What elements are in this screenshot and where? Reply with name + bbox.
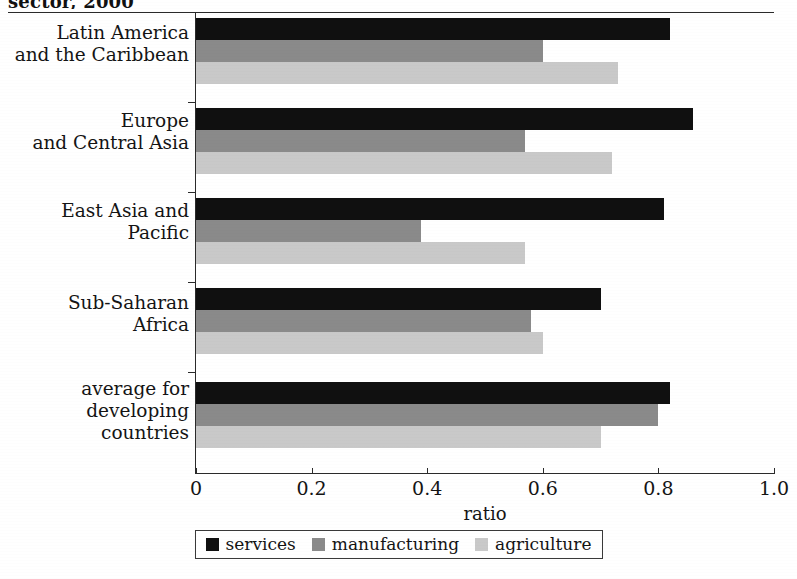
x-tick-label-0.8: 0.8 — [643, 477, 673, 499]
legend-item-agriculture[interactable]: agriculture — [475, 534, 591, 554]
legend-swatch-services — [205, 538, 218, 551]
legend-label-agriculture: agriculture — [495, 534, 591, 554]
x-tick-0.4 — [427, 468, 428, 474]
legend-item-services[interactable]: services — [205, 534, 295, 554]
legend-label-manufacturing: manufacturing — [332, 534, 459, 554]
bar-manufacturing[interactable] — [196, 40, 543, 62]
x-tick-label-1.0: 1.0 — [759, 477, 789, 499]
x-tick-0.6 — [543, 468, 544, 474]
x-tick-label-0.2: 0.2 — [296, 477, 326, 499]
category-tick — [188, 372, 196, 373]
x-axis-title: ratio — [463, 503, 506, 524]
category-tick — [188, 102, 196, 103]
x-axis-line — [196, 473, 774, 474]
legend-label-services: services — [225, 534, 295, 554]
legend-swatch-manufacturing — [312, 538, 325, 551]
chart-figure: sector, 2000 00.20.40.60.81.0 Latin Amer… — [0, 0, 797, 579]
bar-agriculture[interactable] — [196, 242, 525, 264]
x-tick-label-0: 0 — [190, 477, 202, 499]
bar-services[interactable] — [196, 108, 693, 130]
bar-manufacturing[interactable] — [196, 404, 658, 426]
category-tick — [188, 192, 196, 193]
bar-manufacturing[interactable] — [196, 130, 525, 152]
category-tick — [188, 282, 196, 283]
chart-title: sector, 2000 — [8, 0, 134, 9]
bar-agriculture[interactable] — [196, 152, 612, 174]
category-label: Latin America and the Caribbean — [15, 22, 189, 66]
bar-services[interactable] — [196, 382, 670, 404]
bar-agriculture[interactable] — [196, 332, 543, 354]
legend-swatch-agriculture — [475, 538, 488, 551]
bar-services[interactable] — [196, 198, 664, 220]
category-label: average for developing countries — [81, 378, 189, 444]
x-tick-label-0.4: 0.4 — [412, 477, 442, 499]
category-label: Sub-Saharan Africa — [68, 292, 189, 336]
x-tick-1.0 — [774, 468, 775, 474]
x-tick-0.2 — [312, 468, 313, 474]
bar-services[interactable] — [196, 18, 670, 40]
x-tick-0 — [196, 468, 197, 474]
bar-agriculture[interactable] — [196, 426, 601, 448]
legend-item-manufacturing[interactable]: manufacturing — [312, 534, 459, 554]
category-label: Europe and Central Asia — [32, 110, 189, 154]
x-tick-label-0.6: 0.6 — [528, 477, 558, 499]
category-label: East Asia and Pacific — [61, 200, 189, 244]
x-tick-0.8 — [658, 468, 659, 474]
bar-manufacturing[interactable] — [196, 220, 421, 242]
bar-agriculture[interactable] — [196, 62, 618, 84]
bar-services[interactable] — [196, 288, 601, 310]
chart-legend: services manufacturing agriculture — [194, 530, 602, 559]
bar-manufacturing[interactable] — [196, 310, 531, 332]
